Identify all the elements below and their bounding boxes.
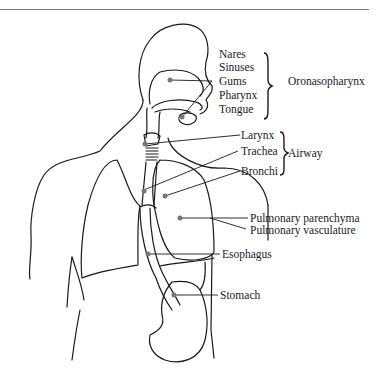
brace-airway xyxy=(280,132,288,175)
marker-trachea xyxy=(142,189,147,194)
label-sinuses: Sinuses xyxy=(219,61,254,74)
label-pharynx: Pharynx xyxy=(219,89,257,102)
right-lung xyxy=(153,160,214,260)
esophagus xyxy=(140,208,172,310)
label-nares: Nares xyxy=(219,48,246,61)
label-pulmonary-vasculature: Pulmonary vasculature xyxy=(250,224,356,237)
label-gums: Gums xyxy=(219,75,246,88)
stomach xyxy=(150,281,208,362)
marker-bronchi xyxy=(163,194,168,199)
neck-left xyxy=(29,100,143,279)
anatomy-illustration xyxy=(0,0,385,379)
marker-sinuses xyxy=(168,78,173,83)
brace-oronasopharynx xyxy=(264,53,272,119)
marker-tongue xyxy=(180,115,185,120)
label-tongue: Tongue xyxy=(219,103,253,116)
left-lung xyxy=(81,160,140,278)
label-stomach: Stomach xyxy=(220,289,260,302)
label-esophagus: Esophagus xyxy=(222,248,272,261)
label-bronchi: Bronchi xyxy=(241,165,278,178)
marker-stomach xyxy=(172,293,177,298)
label-trachea: Trachea xyxy=(241,145,278,158)
nasal-cavity xyxy=(149,70,203,104)
marker-parenchyma xyxy=(178,216,183,221)
label-oronasopharynx: Oronasopharynx xyxy=(288,75,365,88)
label-airway: Airway xyxy=(288,147,323,160)
label-larynx: Larynx xyxy=(241,129,274,142)
marker-esophagus xyxy=(146,252,151,257)
marker-larynx xyxy=(143,142,148,147)
